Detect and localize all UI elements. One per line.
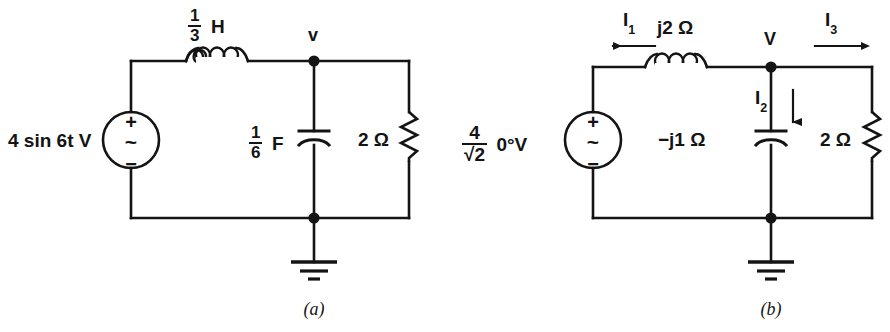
capacitor-b-label: −j1 Ω bbox=[658, 130, 705, 149]
inductor-a-numerator: 1 bbox=[188, 7, 201, 25]
source-b-numerator: 4 bbox=[467, 123, 482, 143]
source-b-minus-symbol: − bbox=[583, 154, 603, 174]
caption-a: (a) bbox=[244, 300, 384, 318]
capacitor-a-denominator: 6 bbox=[249, 142, 262, 162]
junction-dot-b-bottom bbox=[765, 212, 776, 223]
source-b-denominator: √2 bbox=[462, 143, 487, 165]
capacitor-a bbox=[299, 131, 329, 145]
current-label-i1: I1 bbox=[623, 10, 635, 33]
caption-b: (b) bbox=[701, 300, 841, 318]
current-i3-subscript: 3 bbox=[830, 23, 837, 37]
capacitor-a-numerator: 1 bbox=[249, 124, 262, 142]
source-b-plus-symbol: + bbox=[583, 112, 603, 132]
ground-symbol-a bbox=[291, 262, 337, 279]
capacitor-a-label: 1 6 F bbox=[249, 125, 284, 163]
inductor-a-unit: H bbox=[211, 17, 225, 36]
current-i1-subscript: 1 bbox=[628, 23, 635, 37]
current-i2-subscript: 2 bbox=[760, 101, 767, 115]
resistor-a bbox=[401, 112, 417, 162]
junction-dot-b-top bbox=[765, 61, 776, 72]
capacitor-b bbox=[756, 131, 786, 145]
inductor-a-fraction: 1 3 bbox=[188, 7, 201, 45]
inductor-a bbox=[186, 48, 248, 66]
source-b-fraction: 4 √2 bbox=[462, 123, 487, 165]
junction-dot-a-top bbox=[308, 55, 319, 66]
node-label-b: V bbox=[764, 30, 776, 48]
current-label-i2: I2 bbox=[755, 88, 767, 111]
capacitor-a-unit: F bbox=[272, 134, 284, 153]
inductor-b-label: j2 Ω bbox=[657, 18, 693, 37]
figure-root: 1 3 H v 4 sin 6t V + ~ − 1 6 F 2 Ω (a) I… bbox=[0, 0, 890, 332]
resistor-b bbox=[864, 112, 880, 162]
inductor-a-denominator: 3 bbox=[188, 25, 201, 45]
source-b-label: 4 √2 0°V bbox=[462, 124, 527, 166]
ground-symbol-b bbox=[748, 262, 794, 279]
inductor-a-label: 1 3 H bbox=[188, 8, 225, 46]
junction-dot-a-bottom bbox=[308, 212, 319, 223]
source-a-minus-symbol: − bbox=[121, 154, 141, 174]
circuit-a-group bbox=[103, 48, 417, 280]
capacitor-a-fraction: 1 6 bbox=[249, 124, 262, 162]
current-label-i3: I3 bbox=[825, 10, 837, 33]
source-b-wave-symbol: ~ bbox=[583, 131, 603, 152]
resistor-b-label: 2 Ω bbox=[820, 130, 851, 149]
source-b-angle: 0°V bbox=[496, 135, 527, 154]
resistor-a-label: 2 Ω bbox=[358, 130, 389, 149]
source-a-label: 4 sin 6t V bbox=[8, 131, 91, 150]
circuit-b-group bbox=[565, 46, 880, 279]
source-a-wave-symbol: ~ bbox=[121, 131, 141, 152]
node-label-a: v bbox=[308, 26, 318, 44]
inductor-b bbox=[645, 54, 707, 72]
source-a-plus-symbol: + bbox=[121, 112, 141, 132]
